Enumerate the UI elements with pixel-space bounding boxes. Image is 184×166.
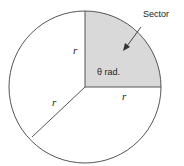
angle-label: θ rad. — [97, 67, 120, 77]
radius-label-vertical: r — [73, 44, 78, 56]
radius-label-diagonal: r — [52, 96, 57, 108]
sector-callout-label: Sector — [143, 9, 169, 19]
radius-label-horizontal: r — [122, 90, 127, 102]
sector-diagram: r r r θ rad. Sector — [0, 0, 184, 166]
radius-diagonal — [32, 87, 85, 137]
